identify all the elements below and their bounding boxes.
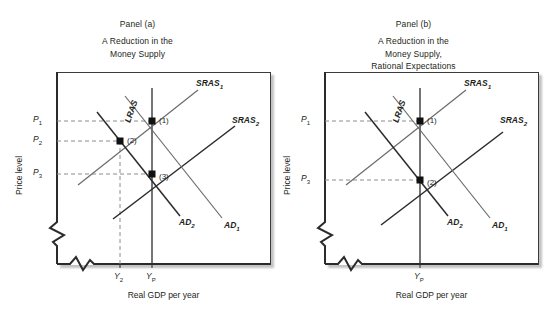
ytick-p3-sub: 3	[39, 173, 42, 179]
ytick-p1-sub: 1	[307, 120, 310, 126]
panel-a-label-ad2: AD2	[179, 217, 195, 229]
panel-a-xtick-yp: YP	[146, 271, 156, 283]
panel-a-label-sras1: SRAS1	[196, 78, 223, 90]
sras1-base: SRAS	[196, 78, 220, 88]
sras1-sub: 1	[220, 83, 223, 90]
ytick-p1-sub: 1	[39, 120, 42, 126]
panel-a-ytick-p2: P2	[33, 134, 42, 146]
sras1-base: SRAS	[464, 78, 488, 88]
panel-b-x-axis-title: Real GDP per year	[325, 290, 538, 300]
panel-a: Panel (a) A Reduction in the Money Suppl…	[0, 0, 275, 316]
panel-b-label-ad1: AD1	[492, 220, 508, 232]
panel-b-label-ad2: AD2	[447, 217, 463, 229]
panel-a-label-sras2: SRAS2	[232, 115, 259, 127]
panel-a-point-3: (3)	[159, 172, 169, 181]
xtick-yp-sub: P	[152, 277, 156, 283]
y-axis-with-break	[50, 72, 64, 264]
panel-a-x-axis-title: Real GDP per year	[57, 290, 270, 300]
ad2-base: AD	[447, 217, 459, 227]
panel-b-y-axis-title: Price level	[282, 156, 292, 195]
panel-b-ytick-p3: P3	[301, 173, 310, 185]
point-marker-3	[149, 171, 156, 178]
panel-b-point-2: (2)	[427, 178, 437, 187]
xtick-y2-sub: 2	[120, 277, 123, 283]
panel-a-y-axis-title: Price level	[14, 156, 24, 195]
panel-a-plot-svg	[0, 0, 275, 316]
panel-b-label-sras1: SRAS1	[464, 78, 491, 90]
panel-a-ytick-p3: P3	[33, 167, 42, 179]
panel-b: Panel (b) A Reduction in the Money Suppl…	[276, 0, 551, 316]
panel-b-xtick-yp: YP	[414, 271, 424, 283]
ad1-base: AD	[224, 220, 236, 230]
panel-b-plot-svg	[276, 0, 551, 316]
ad1-base: AD	[492, 220, 504, 230]
panel-b-ytick-p1: P1	[301, 114, 310, 126]
panel-a-ytick-p1: P1	[33, 114, 42, 126]
point-marker-2	[117, 138, 124, 145]
panel-a-point-1: (1)	[159, 116, 169, 125]
sras2-base: SRAS	[500, 115, 524, 125]
ytick-p2-sub: 2	[39, 140, 42, 146]
ad1-sub: 1	[236, 225, 239, 232]
ad2-sub: 2	[459, 222, 462, 229]
sras2-sub: 2	[524, 120, 527, 127]
sras2-sub: 2	[256, 120, 259, 127]
panel-b-label-sras2: SRAS2	[500, 115, 527, 127]
ad2-base: AD	[179, 217, 191, 227]
ad1-sub: 1	[504, 225, 507, 232]
panel-a-label-ad1: AD1	[224, 220, 240, 232]
panel-a-xtick-y2: Y2	[114, 271, 123, 283]
x-axis-with-break	[57, 257, 270, 270]
curve-ad1	[393, 96, 490, 218]
panel-b-point-1: (1)	[427, 116, 437, 125]
sras2-base: SRAS	[232, 115, 256, 125]
curve-ad2	[365, 112, 448, 216]
point-marker-1	[149, 118, 156, 125]
y-axis-with-break	[318, 72, 332, 264]
point-marker-1	[417, 118, 424, 125]
ad2-sub: 2	[191, 222, 194, 229]
panel-a-point-2: (2)	[127, 136, 137, 145]
point-marker-2	[417, 177, 424, 184]
xtick-yp-sub: P	[420, 277, 424, 283]
ytick-p3-sub: 3	[307, 179, 310, 185]
x-axis-with-break	[325, 257, 538, 270]
sras1-sub: 1	[488, 83, 491, 90]
